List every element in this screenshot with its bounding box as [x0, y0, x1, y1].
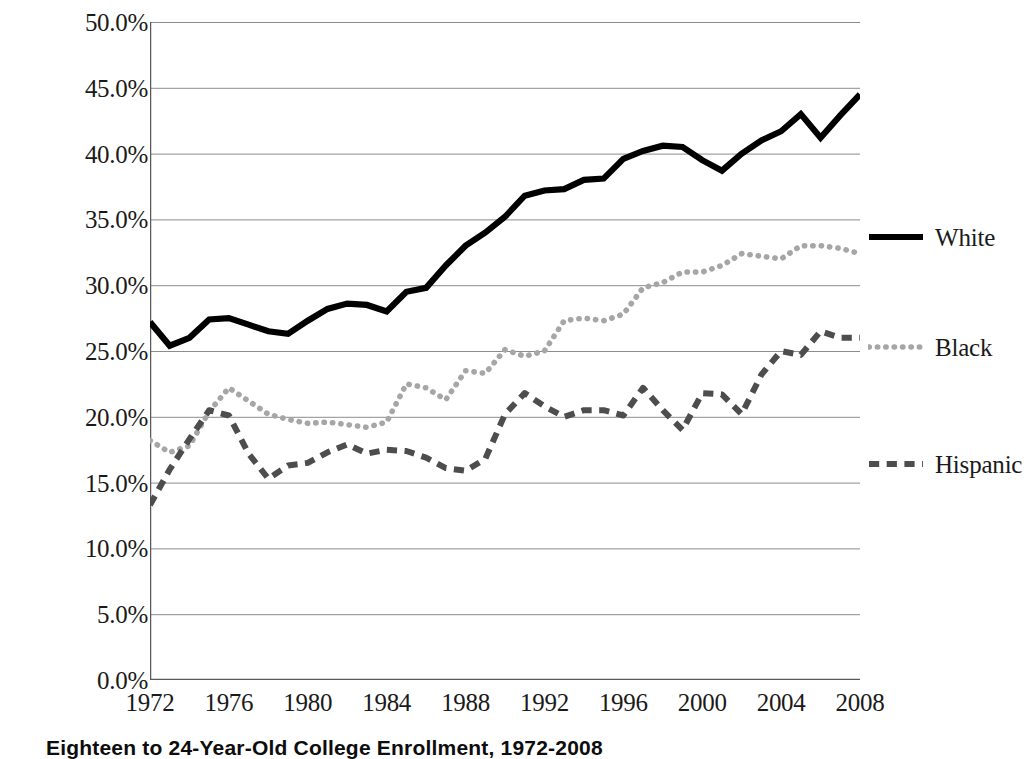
y-axis-tick-label: 40.0%: [18, 142, 148, 167]
line-chart-canvas: [150, 22, 860, 680]
legend-label: Black: [935, 335, 992, 360]
y-axis-tick-label: 10.0%: [18, 536, 148, 561]
y-axis-tick-label: 45.0%: [18, 76, 148, 101]
y-axis-tick-label: 20.0%: [18, 405, 148, 430]
y-axis-tick-label: 50.0%: [18, 10, 148, 35]
legend-item-hispanic[interactable]: Hispanic: [868, 451, 1022, 477]
chart-caption: Eighteen to 24-Year-Old College Enrollme…: [46, 737, 603, 758]
solid-line-swatch: [868, 224, 924, 250]
plot-area: [150, 22, 860, 680]
y-axis-tick-label: 35.0%: [18, 207, 148, 232]
legend-item-black[interactable]: Black: [868, 334, 992, 360]
x-axis-tick-label: 1992: [520, 690, 569, 715]
legend-label: White: [935, 225, 995, 250]
y-axis-labels: 0.0%5.0%10.0%15.0%20.0%25.0%30.0%35.0%40…: [0, 0, 148, 757]
y-axis-tick-label: 5.0%: [18, 602, 148, 627]
dotted-line-swatch: [868, 334, 924, 360]
legend-label: Hispanic: [935, 452, 1022, 477]
x-axis-tick-label: 1988: [441, 690, 490, 715]
x-axis-labels: 1972197619801984198819921996200020042008: [150, 690, 860, 730]
x-axis-tick-label: 1996: [599, 690, 648, 715]
x-axis-tick-label: 2000: [678, 690, 727, 715]
dashed-line-swatch: [868, 451, 924, 477]
x-axis-tick-label: 1972: [126, 690, 175, 715]
chart-legend: WhiteBlackHispanic: [868, 0, 1035, 757]
series-line-hispanic: [150, 331, 860, 505]
x-axis-tick-label: 1976: [204, 690, 253, 715]
x-axis-tick-label: 1984: [362, 690, 411, 715]
legend-item-white[interactable]: White: [868, 224, 995, 250]
x-axis-tick-label: 2004: [757, 690, 806, 715]
y-axis-tick-label: 15.0%: [18, 471, 148, 496]
x-axis-tick-label: 1980: [283, 690, 332, 715]
y-axis-tick-label: 25.0%: [18, 339, 148, 364]
y-axis-tick-label: 30.0%: [18, 273, 148, 298]
